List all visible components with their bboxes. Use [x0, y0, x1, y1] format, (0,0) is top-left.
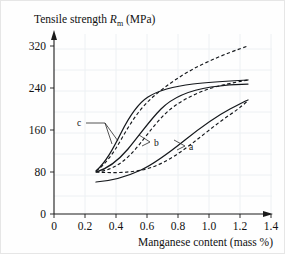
grid-lines	[54, 34, 272, 214]
y-tick-label-240: 240	[29, 82, 47, 94]
data-curves	[96, 46, 248, 182]
x-tick-label-06: 0.6	[140, 220, 155, 232]
y-axis-title: Tensile strength Rm (MPa)	[34, 13, 156, 28]
x-tick-label-0: 0	[51, 220, 57, 232]
x-tick-label-02: 0.2	[78, 220, 93, 232]
x-axis-arrowhead	[263, 211, 273, 217]
curve-c-solid	[96, 80, 248, 171]
y-axis-title-symbol: R	[109, 13, 117, 25]
leader-c-branch-1	[105, 123, 112, 144]
y-axis-title-prefix: Tensile strength	[34, 13, 110, 26]
x-tick-label-12: 1.2	[233, 220, 248, 232]
x-tick-label-04: 0.4	[109, 220, 124, 232]
curve-label-c: c	[77, 118, 81, 128]
leader-b	[139, 135, 150, 142]
chart-canvas: 0 80 160 240 320 0 0.2 0.4 0.6 0.8 1.0 1…	[1, 1, 285, 254]
y-tick-label-320: 320	[29, 40, 47, 52]
y-tick-label-0: 0	[40, 208, 46, 220]
y-axis-title-unit: (MPa)	[123, 13, 155, 26]
x-axis-ticks	[54, 214, 271, 218]
x-axis-title: Manganese content (mass %)	[138, 236, 273, 249]
curve-label-leaders	[86, 123, 185, 150]
y-axis-arrowhead	[51, 30, 57, 40]
y-axis-ticks	[50, 46, 54, 214]
curve-label-a: a	[189, 142, 194, 152]
x-tick-label-08: 0.8	[171, 220, 186, 232]
leader-b-tick	[142, 142, 150, 146]
curve-label-b: b	[154, 138, 159, 148]
y-tick-label-80: 80	[35, 166, 47, 178]
y-axis-tick-labels: 0 80 160 240 320	[29, 40, 47, 220]
curve-b-solid	[96, 84, 248, 172]
x-axis-tick-labels: 0 0.2 0.4 0.6 0.8 1.0 1.2 1.4	[51, 220, 278, 232]
y-tick-label-160: 160	[29, 124, 47, 136]
x-tick-label-14: 1.4	[264, 220, 279, 232]
x-tick-label-10: 1.0	[202, 220, 217, 232]
chart-figure: 0 80 160 240 320 0 0.2 0.4 0.6 0.8 1.0 1…	[0, 0, 285, 254]
